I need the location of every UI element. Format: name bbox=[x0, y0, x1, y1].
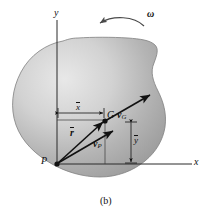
angular-velocity-label: ω bbox=[147, 9, 154, 19]
vector-vG-label: vG bbox=[117, 110, 126, 121]
angular-velocity-arc-icon bbox=[100, 18, 144, 26]
ybar-text: y bbox=[134, 136, 138, 145]
xbar-text: x bbox=[76, 103, 80, 112]
vG-subscript: G bbox=[121, 113, 126, 120]
point-P-label: P bbox=[41, 156, 47, 166]
vP-subscript: P bbox=[97, 142, 101, 149]
dimension-xbar-label: x bbox=[76, 103, 80, 112]
point-G-label: G bbox=[107, 110, 114, 120]
y-axis-label: y bbox=[54, 8, 58, 18]
r-text: r bbox=[70, 128, 74, 138]
x-axis-label: x bbox=[194, 157, 198, 167]
point-P-marker bbox=[54, 161, 59, 166]
figure-canvas bbox=[0, 0, 214, 215]
vector-vP-label: vP bbox=[93, 139, 102, 150]
vector-r-label: r bbox=[70, 128, 74, 138]
dimension-ybar-label: y bbox=[134, 136, 138, 145]
figure-caption: (b) bbox=[100, 195, 112, 206]
figure-rigid-body-plane-motion: y x P G x y r vP vG ω (b) bbox=[0, 0, 214, 215]
rigid-body-shape bbox=[13, 37, 166, 177]
